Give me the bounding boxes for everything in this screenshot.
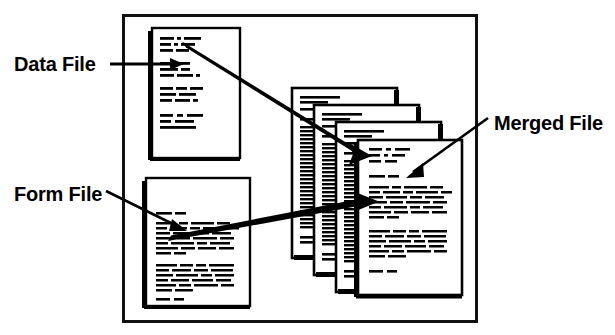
data-file-label: Data File [14,53,96,75]
merged-file-page [354,140,462,299]
merge-diagram-svg: Data File Form File Merged File [0,0,615,335]
diagram-canvas: Data File Form File Merged File [0,0,615,335]
form-file-page [142,178,250,309]
merged-file-label: Merged File [494,112,603,134]
data-file-page [148,28,240,161]
form-file-label: Form File [14,183,102,205]
